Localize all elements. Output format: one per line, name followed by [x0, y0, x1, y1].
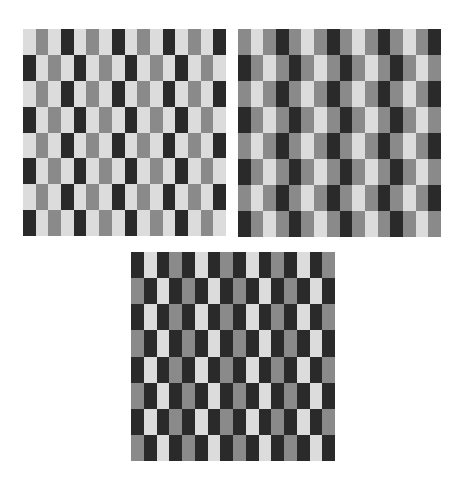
- pattern-cell: [150, 210, 163, 236]
- pattern-cell: [182, 330, 195, 356]
- pattern-cell: [48, 81, 61, 107]
- pattern-cell: [322, 409, 335, 435]
- pattern-cell: [74, 133, 87, 159]
- pattern-cell: [340, 55, 353, 81]
- pattern-cell: [188, 29, 201, 55]
- pattern-cell: [276, 107, 289, 133]
- pattern-cell: [213, 29, 226, 55]
- pattern-cell: [157, 330, 170, 356]
- pattern-cell: [188, 210, 201, 236]
- pattern-cell: [428, 107, 441, 133]
- pattern-cell: [310, 278, 323, 304]
- pattern-cell: [327, 185, 340, 211]
- pattern-cell: [220, 383, 233, 409]
- pattern-cell: [137, 133, 150, 159]
- pattern-cell: [428, 159, 441, 185]
- pattern-cell: [157, 304, 170, 330]
- pattern-cell: [150, 107, 163, 133]
- pattern-cell: [36, 184, 49, 210]
- pattern-cell: [378, 159, 391, 185]
- pattern-cell: [276, 185, 289, 211]
- pattern-cell: [188, 107, 201, 133]
- pattern-cell: [86, 29, 99, 55]
- pattern-cell: [310, 409, 323, 435]
- pattern-cell: [195, 252, 208, 278]
- pattern-cell: [301, 29, 314, 55]
- pattern-cell: [263, 185, 276, 211]
- pattern-cell: [289, 159, 302, 185]
- pattern-cell: [195, 304, 208, 330]
- pattern-cell: [352, 55, 365, 81]
- pattern-cell: [314, 133, 327, 159]
- pattern-cell: [233, 278, 246, 304]
- pattern-cell: [182, 435, 195, 461]
- pattern-cell: [340, 133, 353, 159]
- pattern-cell: [301, 107, 314, 133]
- pattern-cell: [99, 55, 112, 81]
- pattern-cell: [112, 184, 125, 210]
- pattern-cell: [289, 211, 302, 237]
- pattern-cell: [169, 435, 182, 461]
- pattern-cell: [403, 55, 416, 81]
- pattern-cell: [144, 330, 157, 356]
- pattern-cell: [157, 409, 170, 435]
- pattern-cell: [86, 184, 99, 210]
- pattern-cell: [238, 29, 251, 55]
- pattern-cell: [188, 158, 201, 184]
- pattern-cell: [74, 81, 87, 107]
- pattern-cell: [271, 435, 284, 461]
- pattern-cell: [23, 81, 36, 107]
- pattern-cell: [169, 330, 182, 356]
- pattern-cell: [378, 107, 391, 133]
- pattern-cell: [322, 383, 335, 409]
- pattern-cell: [340, 29, 353, 55]
- pattern-cell: [23, 107, 36, 133]
- pattern-cell: [352, 159, 365, 185]
- pattern-cell: [284, 435, 297, 461]
- pattern-cell: [182, 304, 195, 330]
- pattern-cell: [131, 304, 144, 330]
- pattern-cell: [201, 81, 214, 107]
- pattern-cell: [263, 211, 276, 237]
- pattern-cell: [48, 29, 61, 55]
- pattern-cell: [61, 210, 74, 236]
- pattern-cell: [131, 278, 144, 304]
- pattern-cell: [416, 159, 429, 185]
- pattern-cell: [246, 330, 259, 356]
- pattern-cell: [36, 55, 49, 81]
- pattern-cell: [112, 158, 125, 184]
- pattern-cell: [314, 55, 327, 81]
- pattern-cell: [297, 252, 310, 278]
- pattern-cell: [163, 29, 176, 55]
- pattern-cell: [263, 159, 276, 185]
- pattern-cell: [61, 133, 74, 159]
- pattern-cell: [289, 55, 302, 81]
- pattern-cell: [188, 81, 201, 107]
- pattern-cell: [233, 435, 246, 461]
- pattern-cell: [259, 330, 272, 356]
- pattern-cell: [36, 133, 49, 159]
- pattern-cell: [284, 252, 297, 278]
- pattern-cell: [125, 158, 138, 184]
- pattern-cell: [86, 133, 99, 159]
- pattern-cell: [251, 133, 264, 159]
- pattern-cell: [276, 133, 289, 159]
- checker-pattern-bottom-center: [131, 252, 335, 461]
- pattern-cell: [365, 107, 378, 133]
- pattern-cell: [301, 133, 314, 159]
- pattern-cell: [327, 211, 340, 237]
- pattern-cell: [99, 133, 112, 159]
- pattern-cell: [271, 252, 284, 278]
- pattern-cell: [48, 210, 61, 236]
- pattern-cell: [213, 107, 226, 133]
- pattern-cell: [263, 55, 276, 81]
- pattern-cell: [144, 304, 157, 330]
- pattern-cell: [233, 330, 246, 356]
- pattern-cell: [208, 357, 221, 383]
- pattern-cell: [352, 81, 365, 107]
- pattern-cell: [125, 133, 138, 159]
- pattern-cell: [271, 278, 284, 304]
- pattern-cell: [213, 158, 226, 184]
- pattern-cell: [99, 158, 112, 184]
- pattern-cell: [246, 304, 259, 330]
